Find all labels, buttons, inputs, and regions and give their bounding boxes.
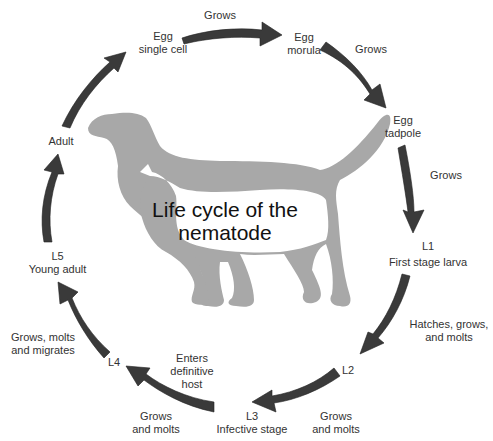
arrow-l2-to-l3: [252, 368, 340, 412]
transition-line-1: Grows: [424, 169, 468, 182]
transition-label-hatches: Hatches, grows, and molts: [404, 318, 493, 344]
transition-line-1: Hatches, grows,: [404, 318, 493, 331]
stage-line-1: L1: [378, 240, 478, 253]
transition-label-grows-3: Grows: [424, 169, 468, 182]
stage-egg-tadpole: Egg tadpole: [378, 114, 428, 140]
transition-line-1: Grows: [306, 410, 366, 423]
stage-line-2: First stage larva: [378, 256, 478, 269]
stage-l4: L4: [104, 356, 124, 369]
transition-label-migrates: Grows, molts and migrates: [8, 331, 78, 357]
stage-line-1: L3: [202, 410, 302, 423]
transition-line-2: and molts: [126, 423, 186, 436]
stage-line-1: L2: [338, 364, 358, 377]
title-line-1: Life cycle of the: [150, 198, 300, 221]
annotation-line-2: definitive: [162, 365, 222, 378]
stage-line-1: Egg: [128, 30, 198, 43]
transition-line-1: Grows: [126, 410, 186, 423]
annotation-line-3: host: [162, 378, 222, 391]
stage-l2: L2: [338, 364, 358, 377]
stage-egg-single-cell: Egg single cell: [128, 30, 198, 56]
stage-line-2: single cell: [128, 43, 198, 56]
transition-line-1: Grows: [349, 43, 393, 56]
transition-label-grows-molts-l2: Grows and molts: [306, 410, 366, 436]
transition-line-1: Grows: [198, 9, 242, 22]
title-line-2: nematode: [150, 221, 300, 244]
transition-line-2: and migrates: [8, 344, 78, 357]
annotation-line-1: Enters: [162, 352, 222, 365]
stage-line-1: Adult: [44, 135, 78, 148]
arrow-tadpole-to-l1: [398, 145, 424, 233]
stage-line-2: morula: [280, 44, 328, 57]
transition-label-grows-molts-l3: Grows and molts: [126, 410, 186, 436]
transition-line-2: and molts: [306, 423, 366, 436]
stage-line-1: Egg: [280, 31, 328, 44]
arrow-l1-to-l2: [360, 274, 410, 354]
annotation-enters-host: Enters definitive host: [162, 352, 222, 391]
stage-adult: Adult: [44, 135, 78, 148]
stage-line-1: L4: [104, 356, 124, 369]
arrow-l5-to-adult: [42, 154, 64, 242]
stage-l1: L1 First stage larva: [378, 240, 478, 269]
transition-label-grows-1: Grows: [198, 9, 242, 22]
stage-line-2: tadpole: [378, 127, 428, 140]
stage-l3: L3 Infective stage: [202, 410, 302, 436]
stage-line-2: Infective stage: [202, 423, 302, 436]
stage-line-2: Young adult: [20, 263, 95, 276]
stage-line-1: Egg: [378, 114, 428, 127]
transition-label-grows-2: Grows: [349, 43, 393, 56]
transition-line-2: and molts: [404, 331, 493, 344]
stage-egg-morula: Egg morula: [280, 31, 328, 57]
diagram-title: Life cycle of the nematode: [150, 198, 300, 244]
nematode-life-cycle-diagram: Life cycle of the nematode Egg single ce…: [0, 0, 493, 441]
transition-line-1: Grows, molts: [8, 331, 78, 344]
stage-line-1: L5: [20, 250, 95, 263]
stage-l5: L5 Young adult: [20, 250, 95, 276]
